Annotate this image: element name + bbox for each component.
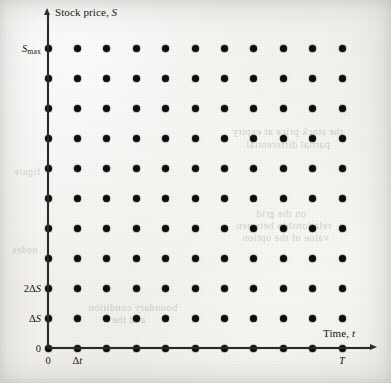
lattice-dot: [221, 315, 228, 322]
lattice-dot: [74, 105, 81, 112]
x-axis-tick-label: Δt: [73, 355, 83, 366]
lattice-dot: [339, 285, 346, 292]
lattice-dot: [280, 45, 287, 52]
lattice-dot: [339, 225, 346, 232]
lattice-dot: [250, 315, 257, 322]
lattice-dot: [192, 195, 199, 202]
lattice-dot: [309, 135, 316, 142]
lattice-dot: [103, 135, 110, 142]
x-axis-tick-label: 0: [45, 355, 50, 366]
x-axis-arrow-icon: [370, 344, 377, 350]
lattice-dot: [221, 225, 228, 232]
lattice-dot: [192, 165, 199, 172]
lattice-dot: [192, 105, 199, 112]
lattice-dot: [74, 255, 81, 262]
lattice-dot: [162, 165, 169, 172]
y-axis-tick-label: ΔS: [29, 313, 41, 324]
lattice-dot: [192, 315, 199, 322]
lattice-dot: [250, 165, 257, 172]
lattice-dot: [250, 75, 257, 82]
lattice-dot: [162, 75, 169, 82]
y-axis-tick-label: Smax: [22, 43, 41, 54]
lattice-dot: [339, 75, 346, 82]
y-axis-line: [47, 14, 49, 349]
y-axis-title: Stock price, S: [55, 6, 117, 18]
lattice-dot: [250, 195, 257, 202]
lattice-dot: [309, 195, 316, 202]
lattice-dot: [250, 225, 257, 232]
lattice-dot: [192, 135, 199, 142]
lattice-dot: [221, 255, 228, 262]
lattice-dot: [162, 105, 169, 112]
lattice-dot: [221, 45, 228, 52]
lattice-dot: [74, 135, 81, 142]
lattice-dot: [103, 315, 110, 322]
lattice-dot: [192, 75, 199, 82]
lattice-dot: [103, 195, 110, 202]
lattice-dot: [133, 315, 140, 322]
lattice-dot: [133, 135, 140, 142]
lattice-dot: [309, 75, 316, 82]
y-axis-arrow-icon: [44, 8, 50, 15]
lattice-dot: [339, 195, 346, 202]
lattice-dot: [221, 75, 228, 82]
lattice-dot: [280, 105, 287, 112]
lattice-dot: [74, 315, 81, 322]
lattice-dot: [280, 195, 287, 202]
lattice-dot: [309, 255, 316, 262]
lattice-dot: [309, 315, 316, 322]
lattice-dot: [339, 135, 346, 142]
lattice-dot: [309, 165, 316, 172]
lattice-dot: [103, 225, 110, 232]
x-axis-tick-label: T: [339, 355, 345, 366]
lattice-dot: [250, 135, 257, 142]
lattice-dot: [192, 255, 199, 262]
x-axis-line: [48, 347, 371, 349]
lattice-dot: [103, 165, 110, 172]
x-axis-title: Time, t: [323, 327, 355, 339]
lattice-dot: [280, 165, 287, 172]
lattice-dot: [250, 285, 257, 292]
lattice-dot: [162, 135, 169, 142]
lattice-dot: [103, 105, 110, 112]
lattice-dot: [133, 105, 140, 112]
lattice-dot: [221, 195, 228, 202]
lattice-dot: [280, 75, 287, 82]
lattice-dot: [192, 225, 199, 232]
lattice-dot: [74, 285, 81, 292]
lattice-dot: [133, 165, 140, 172]
lattice-dot: [309, 285, 316, 292]
lattice-dot: [339, 255, 346, 262]
lattice-dot: [103, 45, 110, 52]
lattice-dot: [162, 255, 169, 262]
lattice-dot: [309, 225, 316, 232]
lattice-dot: [133, 255, 140, 262]
lattice-dot: [339, 315, 346, 322]
lattice-dot: [133, 285, 140, 292]
lattice-dot: [309, 105, 316, 112]
lattice-dot: [133, 195, 140, 202]
lattice-dot: [74, 225, 81, 232]
lattice-dot: [221, 135, 228, 142]
lattice-dot: [280, 225, 287, 232]
lattice-dot: [162, 285, 169, 292]
y-axis-tick-label: 2ΔS: [24, 283, 41, 294]
lattice-dot: [280, 315, 287, 322]
lattice-dot: [162, 315, 169, 322]
lattice-dot: [250, 105, 257, 112]
lattice-dot: [133, 75, 140, 82]
lattice-dot: [280, 255, 287, 262]
lattice-dot: [74, 195, 81, 202]
figure-page: the stock price at expirypartial differe…: [0, 0, 391, 383]
lattice-dot: [162, 45, 169, 52]
lattice-dot: [339, 45, 346, 52]
lattice-dot: [339, 105, 346, 112]
lattice-dot: [192, 45, 199, 52]
lattice-dot: [162, 195, 169, 202]
lattice-dot: [250, 255, 257, 262]
lattice-dot: [74, 45, 81, 52]
lattice-dot: [133, 45, 140, 52]
lattice-dot: [309, 45, 316, 52]
lattice-dot: [339, 165, 346, 172]
lattice-dot: [280, 135, 287, 142]
